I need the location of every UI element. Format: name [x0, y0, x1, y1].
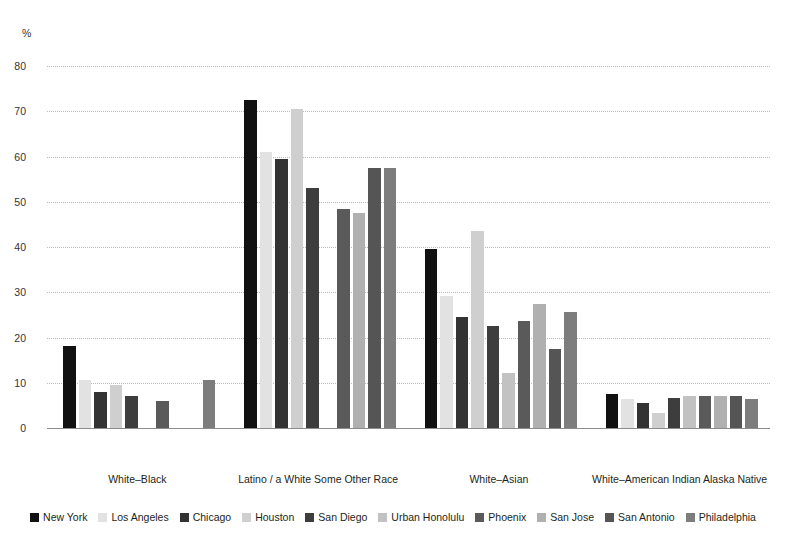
bar	[260, 152, 272, 428]
chart-title: Figure 4. Percentage of Multiracial Popu…	[18, 0, 778, 6]
bar	[440, 296, 452, 428]
gridline	[47, 383, 770, 384]
bar	[699, 396, 711, 428]
legend-item[interactable]: Philadelphia	[686, 511, 756, 523]
y-axis-tick-label: 80	[0, 60, 26, 72]
chart-legend: New YorkLos AngelesChicagoHoustonSan Die…	[0, 507, 786, 527]
legend-item-label: San Antonio	[618, 511, 675, 523]
chart-figure: Figure 4. Percentage of Multiracial Popu…	[0, 0, 786, 538]
legend-swatch-icon	[98, 513, 107, 522]
bar	[275, 159, 287, 428]
y-axis-tick-label: 10	[0, 377, 26, 389]
legend-swatch-icon	[475, 513, 484, 522]
bar	[621, 399, 633, 428]
gridline	[47, 338, 770, 339]
bar	[730, 396, 742, 428]
legend-swatch-icon	[605, 513, 614, 522]
legend-item-label: Chicago	[193, 511, 232, 523]
gridline	[47, 66, 770, 67]
x-axis-group-label: White–Asian	[469, 473, 528, 485]
bar	[564, 312, 576, 428]
bar	[337, 209, 349, 428]
legend-swatch-icon	[180, 513, 189, 522]
y-axis-tick-label: 0	[0, 422, 26, 434]
gridline	[47, 292, 770, 293]
x-axis-group-label: White–Black	[108, 473, 166, 485]
y-axis-tick-label: 60	[0, 151, 26, 163]
legend-swatch-icon	[378, 513, 387, 522]
legend-item-label: San Diego	[318, 511, 367, 523]
bar	[79, 380, 91, 428]
bar	[203, 380, 215, 428]
legend-swatch-icon	[30, 513, 39, 522]
legend-item[interactable]: Phoenix	[475, 511, 526, 523]
bar	[714, 396, 726, 428]
legend-item-label: Philadelphia	[699, 511, 756, 523]
legend-item-label: Urban Honolulu	[391, 511, 464, 523]
bar	[487, 326, 499, 428]
legend-item-label: New York	[43, 511, 87, 523]
bar	[156, 401, 168, 428]
gridline	[47, 157, 770, 158]
y-axis-tick-label: 50	[0, 196, 26, 208]
legend-item-label: Houston	[255, 511, 294, 523]
bar	[353, 213, 365, 428]
bar	[471, 231, 483, 428]
y-axis-unit-label: %	[22, 27, 31, 39]
y-axis-tick-label: 30	[0, 286, 26, 298]
bar	[306, 188, 318, 428]
legend-item[interactable]: San Diego	[305, 511, 367, 523]
bar	[549, 349, 561, 428]
bar	[291, 109, 303, 428]
bar	[110, 385, 122, 428]
bar	[456, 317, 468, 428]
bar	[94, 392, 106, 428]
y-axis-tick-label: 70	[0, 105, 26, 117]
bar	[745, 399, 757, 428]
bar	[125, 396, 137, 428]
axis-baseline	[47, 428, 770, 429]
legend-item-label: San Jose	[550, 511, 594, 523]
bar	[518, 321, 530, 428]
legend-item[interactable]: Los Angeles	[98, 511, 168, 523]
bar	[668, 398, 680, 428]
y-axis-tick-label: 20	[0, 332, 26, 344]
legend-item[interactable]: San Jose	[537, 511, 594, 523]
legend-item[interactable]: New York	[30, 511, 87, 523]
legend-swatch-icon	[537, 513, 546, 522]
legend-item[interactable]: San Antonio	[605, 511, 675, 523]
bar	[502, 373, 514, 428]
legend-item-label: Phoenix	[488, 511, 526, 523]
legend-swatch-icon	[305, 513, 314, 522]
x-axis-group-label: Latino / a White Some Other Race	[238, 473, 398, 485]
bar	[606, 394, 618, 428]
bar	[384, 168, 396, 428]
bar	[533, 304, 545, 428]
gridline	[47, 202, 770, 203]
legend-item[interactable]: Chicago	[180, 511, 232, 523]
gridline	[47, 111, 770, 112]
bar	[63, 346, 75, 428]
bar	[425, 249, 437, 428]
plot-area: 01020304050607080	[47, 66, 770, 428]
bar	[368, 168, 380, 428]
bar	[652, 413, 664, 428]
gridline	[47, 247, 770, 248]
legend-item-label: Los Angeles	[111, 511, 168, 523]
bar	[637, 403, 649, 428]
y-axis-tick-label: 40	[0, 241, 26, 253]
bar	[244, 100, 256, 428]
x-axis-group-label: White–American Indian Alaska Native	[592, 473, 767, 485]
legend-swatch-icon	[242, 513, 251, 522]
legend-item[interactable]: Houston	[242, 511, 294, 523]
legend-item[interactable]: Urban Honolulu	[378, 511, 464, 523]
bar	[683, 396, 695, 428]
legend-swatch-icon	[686, 513, 695, 522]
